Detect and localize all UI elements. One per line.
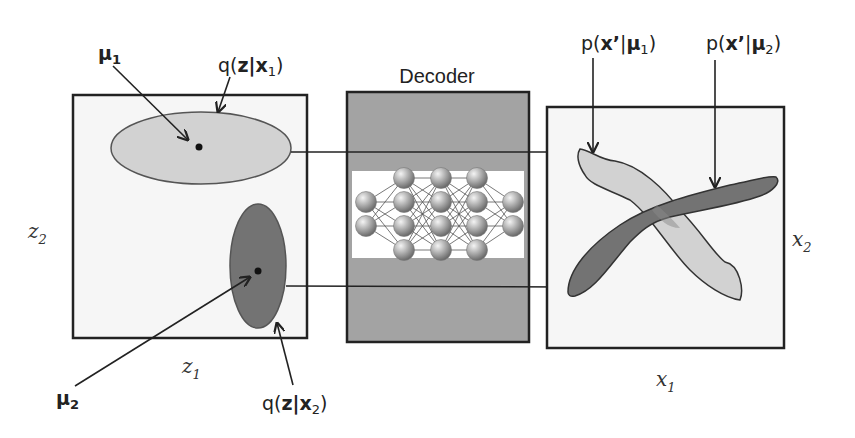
- network-node: [503, 216, 524, 237]
- network-node: [394, 240, 415, 261]
- network-node: [467, 216, 488, 237]
- network-node: [431, 192, 452, 213]
- z1-axis-label: z1: [181, 354, 201, 382]
- q1-label: q(z|x1): [218, 54, 283, 79]
- decoder-title: Decoder: [399, 65, 475, 87]
- network-node: [467, 240, 488, 261]
- vae-diagram: μ1 q(z|x1) μ2 q(z|x2) z2 z1 Decoder p(x’…: [0, 0, 855, 438]
- z2-axis-label: z2: [27, 219, 47, 247]
- network-node: [356, 192, 377, 213]
- mu1-point: [196, 144, 203, 151]
- mu2-point: [255, 268, 262, 275]
- latent-space-panel: μ1 q(z|x1) μ2 q(z|x2) z2 z1: [27, 42, 327, 417]
- network-node: [467, 168, 488, 189]
- network-node: [431, 168, 452, 189]
- mu2-label: μ2: [56, 387, 79, 412]
- p1-label: p(x’|μ1): [581, 32, 656, 57]
- network-node: [356, 216, 377, 237]
- flow-arrow-lower: [286, 286, 566, 287]
- mu1-label: μ1: [98, 42, 121, 67]
- network-node: [431, 216, 452, 237]
- q2-label: q(z|x2): [262, 392, 327, 417]
- network-node: [503, 192, 524, 213]
- network-node: [394, 216, 415, 237]
- network-node: [394, 168, 415, 189]
- posterior-ellipse-2: [230, 204, 286, 328]
- x2-axis-label: x2: [792, 227, 812, 255]
- network-node: [431, 240, 452, 261]
- p2-label: p(x’|μ2): [706, 32, 781, 57]
- x1-axis-label: x1: [656, 367, 676, 395]
- network-node: [467, 192, 488, 213]
- decoder-panel: Decoder: [347, 65, 529, 342]
- data-space-panel: p(x’|μ1) p(x’|μ2) x2 x1: [547, 32, 812, 395]
- network-node: [394, 192, 415, 213]
